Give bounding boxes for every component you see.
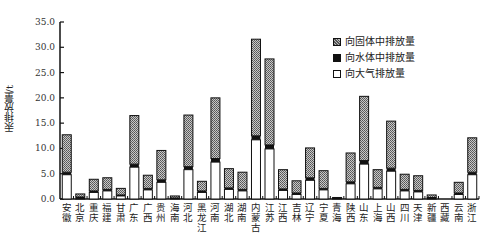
bar-solid (238, 172, 247, 189)
x-category-label: 海 (332, 212, 342, 223)
bar-group (333, 197, 342, 199)
bar-group (238, 172, 247, 199)
bar-solid (116, 188, 125, 195)
y-tick-label: 15.0 (35, 118, 55, 128)
x-axis-labels: 安徽北京重庆福建甘肃广东广西贵州海南河北黑龙江河南湖北湖南内蒙古江苏江西吉林辽宁… (62, 202, 477, 233)
x-category-label: 京 (75, 212, 85, 223)
bar-solid (333, 197, 342, 198)
x-category-label: 肃 (116, 212, 126, 223)
legend-item-air: 向大气排放量 (333, 66, 415, 82)
bar-air (400, 191, 409, 199)
x-category-label: 南 (170, 212, 180, 223)
x-category-label: 东 (129, 212, 139, 223)
x-category-label: 江 (467, 212, 477, 223)
bar-group (346, 153, 355, 199)
x-category-label: 川 (400, 212, 410, 223)
bar-group (400, 174, 409, 199)
bar-air (292, 194, 301, 199)
bar-group (414, 176, 423, 199)
bar-group (387, 121, 396, 199)
legend-label: 向大气排放量 (345, 66, 405, 82)
bar-group (89, 179, 98, 199)
bar-air (454, 194, 463, 199)
bar-air (427, 198, 436, 199)
x-category-label: 北 (183, 212, 193, 223)
bar-water (360, 161, 369, 165)
x-category-label: 西 (143, 212, 153, 223)
bar-air (103, 191, 112, 199)
x-category-label: 西 (346, 212, 356, 223)
bar-air (468, 175, 477, 199)
bar-air (346, 184, 355, 199)
bar-solid (468, 138, 477, 172)
bar-solid (319, 171, 328, 189)
x-category-label: 西 (386, 212, 396, 223)
bar-solid (197, 181, 206, 191)
bar-group (251, 39, 260, 199)
bar-solid (387, 121, 396, 168)
y-tick-label: 30.0 (35, 42, 55, 52)
bar-solid (346, 153, 355, 182)
x-category-label: 东 (359, 212, 369, 223)
bar-air (170, 198, 179, 199)
bar-solid (103, 178, 112, 190)
bar-group (360, 96, 369, 199)
bar-air (265, 149, 274, 199)
x-category-label: 南 (237, 212, 247, 223)
bar-solid (454, 182, 463, 193)
bar-group (130, 116, 139, 199)
bar-group (279, 170, 288, 199)
bar-group (306, 148, 315, 199)
x-category-label: 海 (373, 212, 383, 223)
legend-item-water: 向水体中排放量 (333, 50, 415, 66)
bar-solid (130, 116, 139, 165)
x-category-label: 徽 (62, 212, 72, 223)
y-tick-label: 25.0 (35, 68, 55, 78)
y-tick-label: 10.0 (35, 143, 55, 153)
bar-solid (306, 148, 315, 178)
bar-air (116, 196, 125, 199)
bar-air (373, 189, 382, 199)
bar-solid (360, 96, 369, 160)
bar-group (76, 194, 85, 199)
bar-group (373, 170, 382, 199)
bar-air (157, 182, 166, 199)
x-category-label: 建 (102, 212, 112, 223)
legend-label: 向水体中排放量 (345, 50, 415, 66)
bar-air (211, 162, 220, 199)
x-category-label: 苏 (265, 212, 275, 223)
bar-air (360, 164, 369, 199)
x-category-label: 宁 (305, 212, 315, 223)
bar-solid (251, 39, 260, 136)
x-category-label: 古 (251, 222, 261, 233)
bar-solid (414, 176, 423, 191)
legend-label: 向固体中排放量 (345, 34, 415, 50)
bar-group (116, 188, 125, 199)
x-category-label: 南 (210, 212, 220, 223)
bar-group (157, 150, 166, 199)
bar-group (265, 59, 274, 199)
bar-solid (373, 170, 382, 188)
x-category-label: 林 (292, 212, 302, 223)
x-category-label: 津 (413, 212, 423, 223)
bar-air (184, 170, 193, 199)
x-category-label: 藏 (440, 212, 450, 223)
bar-air (279, 190, 288, 199)
bar-solid (76, 194, 85, 197)
bar-solid (224, 169, 233, 188)
bar-solid (184, 115, 193, 167)
x-category-label: 江 (197, 222, 207, 233)
bar-solid (170, 196, 179, 198)
white-swatch-icon (333, 70, 341, 78)
bar-air (224, 189, 233, 199)
bar-solid (279, 170, 288, 189)
bar-group (197, 181, 206, 199)
x-category-label: 西 (278, 212, 288, 223)
bar-air (143, 190, 152, 199)
bar-group (319, 171, 328, 199)
bar-group (292, 181, 301, 199)
bar-air (197, 192, 206, 199)
y-tick-label: 0.0 (41, 194, 56, 204)
bar-solid (400, 174, 409, 189)
legend-item-solid: 向固体中排放量 (333, 34, 415, 50)
